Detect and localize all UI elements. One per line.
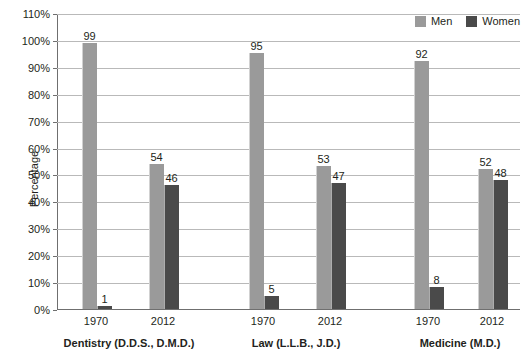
y-axis-tick [53,175,57,176]
period-label: 2012 [318,315,342,327]
y-axis-tick-label: 90% [28,62,50,74]
period-label: 1970 [251,315,275,327]
y-axis-tick [53,229,57,230]
y-axis-tick [53,95,57,96]
period-label: 1970 [416,315,440,327]
period-label: 1970 [84,315,108,327]
y-axis-tick [53,256,57,257]
bar-chart: Men Women Percentage 110%100%90%80%70%60… [0,0,530,357]
gridline [57,256,520,257]
bar-value-label: 92 [415,48,427,60]
y-axis-tick-label: 100% [22,35,50,47]
bar-women: 47 [331,183,346,309]
period-label: 2012 [480,315,504,327]
bar-women: 48 [493,180,508,309]
bar-men: 92 [414,61,429,309]
gridline [57,14,520,15]
bar-value-label: 5 [268,283,274,295]
gridline [57,149,520,150]
gridline [57,68,520,69]
bar-men: 54 [149,164,164,309]
bar-value-label: 47 [332,170,344,182]
bar-women: 46 [164,185,179,309]
bar-men: 99 [82,43,97,309]
bar-women: 8 [429,287,444,309]
x-axis-line [57,309,520,310]
y-axis-tick-label: 80% [28,89,50,101]
bar-men: 53 [316,166,331,309]
gridline [57,283,520,284]
y-axis-tick [53,41,57,42]
bar-value-label: 52 [479,156,491,168]
y-axis-tick [53,310,57,311]
gridline [57,175,520,176]
period-label: 2012 [151,315,175,327]
gridline [57,229,520,230]
category-label: Medicine (M.D.) [420,337,501,349]
y-axis-tick-label: 40% [28,196,50,208]
bar-value-label: 46 [165,172,177,184]
bar-women: 5 [264,296,279,309]
bar-men: 52 [478,169,493,309]
bar-value-label: 54 [150,151,162,163]
bar-women: 1 [97,306,112,309]
gridline [57,122,520,123]
category-label: Law (L.L.B., J.D.) [252,337,341,349]
y-axis-tick [53,202,57,203]
gridline [57,95,520,96]
y-axis-line [57,14,58,310]
bar-value-label: 1 [101,293,107,305]
plot-area: 110%100%90%80%70%60%50%40%30%20%10%0% 99… [57,14,520,310]
y-axis-tick [53,14,57,15]
gridline [57,202,520,203]
y-axis-tick-label: 0% [34,304,50,316]
y-axis-tick-label: 10% [28,277,50,289]
y-axis-tick-label: 50% [28,169,50,181]
y-axis-tick-label: 70% [28,116,50,128]
bar-value-label: 99 [83,30,95,42]
y-axis-tick [53,283,57,284]
bar-value-label: 95 [250,40,262,52]
y-axis-tick-label: 60% [28,143,50,155]
y-axis-tick-label: 20% [28,250,50,262]
y-axis-tick-label: 30% [28,223,50,235]
gridline [57,41,520,42]
y-axis-tick [53,149,57,150]
y-axis-tick [53,122,57,123]
bar-value-label: 48 [494,167,506,179]
y-axis-tick-label: 110% [23,8,50,20]
bar-men: 95 [249,53,264,309]
bar-value-label: 8 [433,274,439,286]
bar-value-label: 53 [317,153,329,165]
category-label: Dentistry (D.D.S., D.M.D.) [64,337,195,349]
y-axis-tick [53,68,57,69]
